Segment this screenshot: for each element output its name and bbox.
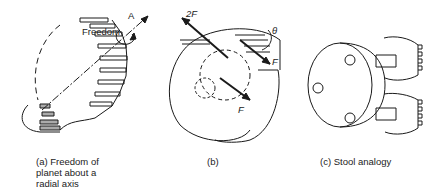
force-2F	[182, 18, 228, 58]
gear-top-c	[376, 37, 422, 80]
panel-c-stool	[308, 37, 422, 134]
angle-theta-label: θ	[272, 25, 277, 36]
axis-A-label: A	[128, 10, 134, 21]
caption-b: (b)	[207, 156, 219, 167]
force-2F-label: 2F	[186, 8, 197, 19]
arrow-head-a	[141, 16, 148, 23]
caption-c: (c) Stool analogy	[320, 156, 391, 167]
panel-b-ring-gear	[169, 18, 280, 142]
force-F-right-label: F	[272, 56, 278, 67]
caption-a: (a) Freedom of planet about a radial axi…	[36, 156, 99, 189]
force-F-bottom-label: F	[238, 104, 244, 115]
freedom-label: Freedom	[82, 26, 120, 37]
